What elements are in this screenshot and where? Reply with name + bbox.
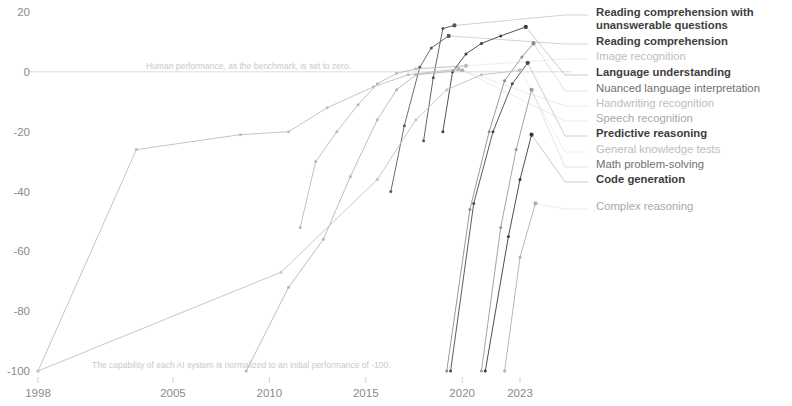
data-point-4 [520,55,523,58]
legend-label: Complex reasoning [596,200,693,213]
chart-root: 200-20-40-60-80-100199820052010201520202… [0,0,792,406]
x-axis-ticks: 199820052010201520202023 [25,377,533,399]
legend-item-8[interactable]: General knowledge tests [596,143,720,156]
data-point-2 [441,27,444,30]
series-line [451,63,528,371]
data-point-0 [503,370,506,373]
chart-annotation-1: The capability of each AI system is norm… [92,360,391,370]
x-tick-label-2: 2010 [257,387,283,399]
data-point-1 [279,271,282,274]
data-point-5 [480,73,483,76]
y-tick-label-0: 20 [17,6,30,18]
data-point-5 [372,85,375,88]
legend-connector-11 [535,203,588,209]
data-point-3 [480,42,483,45]
data-point-0 [422,139,425,142]
data-point-3 [357,103,360,106]
data-point-4 [445,88,448,91]
data-point-0 [484,370,487,373]
legend-item-11[interactable]: Complex reasoning [596,200,693,213]
data-point-3 [414,118,417,121]
legend-item-3[interactable]: Language understanding [596,66,731,79]
series-6[interactable] [245,68,465,372]
legend-connector-1 [449,36,588,44]
series-line [300,66,466,228]
data-point-1 [287,286,290,289]
data-point-0 [480,370,483,373]
series-7[interactable] [449,61,530,373]
x-tick-label-4: 2020 [449,387,475,399]
legend-item-7[interactable]: Predictive reasoning [596,127,707,140]
data-point-4 [376,118,379,121]
data-point-2 [488,130,491,133]
series-line [38,69,458,371]
y-axis-ticks: 200-20-40-60-80-100 [7,6,30,377]
data-point-6 [414,73,417,76]
series-9[interactable] [480,88,534,373]
legend-item-4[interactable]: Nuanced language interpretation [596,82,760,95]
data-point-1 [499,226,502,229]
legend-item-6[interactable]: Speech recognition [596,112,693,125]
series-8[interactable] [37,68,523,372]
legend-label: Reading comprehension [596,35,728,48]
legend-item-5[interactable]: Handwriting recognition [596,97,714,110]
series-10[interactable] [484,133,534,373]
data-point-0 [299,226,302,229]
legend-connector-3 [526,27,588,75]
series-endpoint [529,133,533,137]
series-line [38,70,520,371]
data-point-0 [389,190,392,193]
data-point-6 [407,73,410,76]
data-point-2 [239,133,242,136]
legend-label: Code generation [596,173,685,186]
data-point-5 [395,72,398,75]
legend-item-2[interactable]: Image recognition [596,50,686,63]
series-1[interactable] [389,34,450,193]
data-point-1 [519,256,522,259]
data-point-0 [445,370,448,373]
data-point-2 [519,178,522,181]
legend-item-1[interactable]: Reading comprehension [596,35,728,48]
series-line [246,70,462,371]
x-tick-label-1: 2005 [160,387,186,399]
x-tick-label-5: 2023 [507,387,533,399]
legend-item-9[interactable]: Math problem-solving [596,158,704,171]
legend-item-10[interactable]: Code generation [596,173,685,186]
series-line [505,203,536,371]
series-3[interactable] [441,25,528,133]
data-point-3 [287,130,290,133]
data-point-1 [432,76,435,79]
data-point-3 [503,79,506,82]
x-tick-label-3: 2015 [353,387,379,399]
data-point-4 [499,34,502,37]
data-point-1 [135,148,138,151]
annotations-layer: Human performance, as the benchmark, is … [92,61,391,370]
legend-connector-7 [528,63,588,136]
data-point-1 [468,208,471,211]
y-tick-label-3: -40 [13,186,30,198]
data-point-3 [511,82,514,85]
series-2[interactable] [299,64,468,229]
legend-label-line2: unanswerable questions [596,19,754,32]
y-tick-label-4: -60 [13,245,30,257]
series-line [391,36,449,192]
data-point-6 [414,67,417,70]
legend-label: Nuanced language interpretation [596,82,760,95]
legend-label: Language understanding [596,66,731,79]
data-point-2 [322,238,325,241]
series-line [443,27,526,132]
legend-label: Image recognition [596,50,686,63]
y-tick-label-6: -100 [7,365,30,377]
y-tick-label-2: -20 [13,126,30,138]
series-11[interactable] [503,201,537,372]
legend-connector-0 [454,15,588,25]
data-point-3 [430,46,433,49]
legend-label: Predictive reasoning [596,127,707,140]
series-0[interactable] [422,23,456,142]
data-point-2 [465,52,468,55]
legend-label: Reading comprehension with [596,6,754,19]
legend-item-0[interactable]: Reading comprehension withunanswerable q… [596,6,754,32]
series-5[interactable] [37,67,461,373]
x-tick-label-0: 1998 [25,387,51,399]
legend-label: Handwriting recognition [596,97,714,110]
